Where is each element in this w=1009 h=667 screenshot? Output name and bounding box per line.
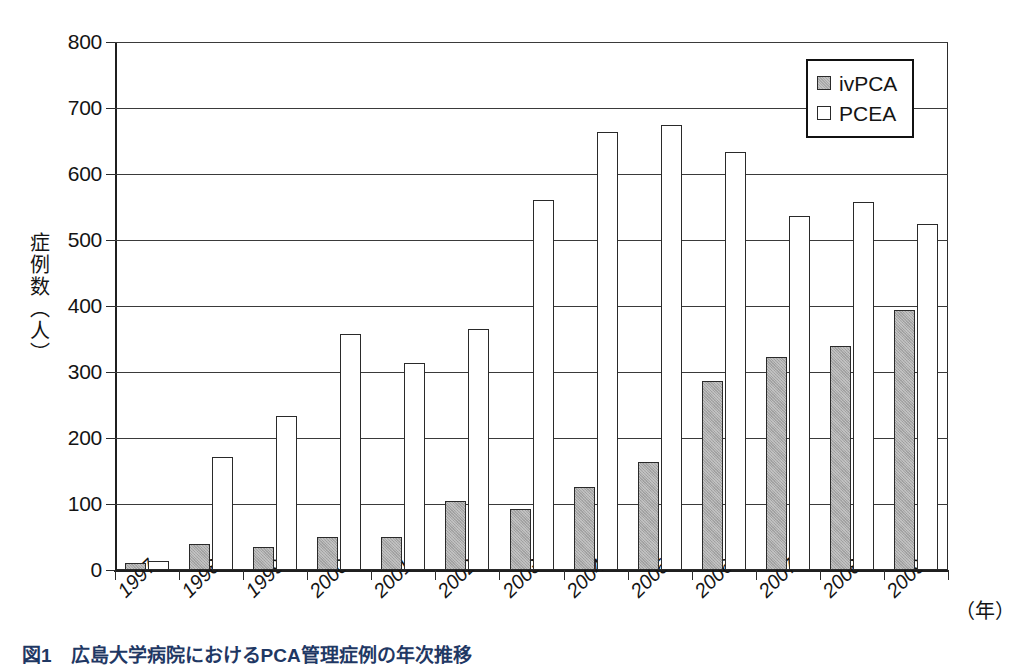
y-axis-tick-label: 300 <box>44 361 102 382</box>
legend-swatch-ivpca-icon <box>817 76 831 90</box>
bar-pcea-2002 <box>468 329 489 570</box>
x-axis-tick <box>435 570 436 580</box>
bar-pcea-2009 <box>917 224 938 571</box>
x-axis-tick <box>243 570 244 580</box>
bar-ivpca-2003 <box>510 509 531 570</box>
y-axis-tick <box>106 438 115 439</box>
y-axis-tick-label: 600 <box>44 163 102 184</box>
y-axis-tick <box>106 108 115 109</box>
bar-pcea-2000 <box>340 334 361 570</box>
x-axis-tick <box>756 570 757 580</box>
bar-pcea-2006 <box>725 152 746 570</box>
bar-pcea-2004 <box>597 132 618 570</box>
figure-caption: 図1 広島大学病院におけるPCA管理症例の年次推移 <box>22 645 472 667</box>
y-axis-tick <box>106 372 115 373</box>
y-axis-tick-label: 0 <box>44 559 102 580</box>
y-axis-tick-label: 500 <box>44 229 102 250</box>
gridline <box>115 504 948 505</box>
bar-ivpca-1997 <box>125 563 146 570</box>
bar-ivpca-2008 <box>830 346 851 570</box>
x-axis-tick <box>692 570 693 580</box>
bar-ivpca-1999 <box>253 547 274 570</box>
bar-ivpca-2000 <box>317 537 338 570</box>
bar-ivpca-2001 <box>381 537 402 570</box>
legend-label-pcea: PCEA <box>839 103 896 124</box>
bar-pcea-2007 <box>789 216 810 570</box>
bar-pcea-2001 <box>404 363 425 570</box>
y-axis-tick <box>106 240 115 241</box>
y-axis-tick-label: 700 <box>44 97 102 118</box>
gridline <box>115 372 948 373</box>
legend-label-ivpca: ivPCA <box>839 73 897 94</box>
y-axis-tick-label: 100 <box>44 493 102 514</box>
y-axis-tick <box>106 306 115 307</box>
x-axis-tick <box>115 570 116 580</box>
bar-ivpca-2005 <box>638 462 659 570</box>
x-axis-tick <box>371 570 372 580</box>
bar-ivpca-2009 <box>894 310 915 570</box>
y-axis-tick-label: 400 <box>44 295 102 316</box>
y-axis-tick-label: 200 <box>44 427 102 448</box>
bar-ivpca-2002 <box>445 501 466 570</box>
bar-pcea-2003 <box>533 200 554 570</box>
bar-pcea-1998 <box>212 457 233 570</box>
legend-item-ivpca[interactable]: ivPCA <box>817 68 903 98</box>
legend-swatch-pcea-icon <box>817 106 831 120</box>
x-axis-tick <box>884 570 885 580</box>
y-axis-tick <box>106 504 115 505</box>
x-axis-tick <box>628 570 629 580</box>
y-axis-tick <box>106 570 115 571</box>
y-axis-tick <box>106 174 115 175</box>
y-axis-tick-label: 800 <box>44 31 102 52</box>
bar-pcea-1999 <box>276 416 297 570</box>
bar-ivpca-2007 <box>766 357 787 570</box>
gridline <box>115 42 948 43</box>
gridline <box>115 240 948 241</box>
chart-legend: ivPCA PCEA <box>806 59 914 138</box>
y-axis-tick <box>106 42 115 43</box>
x-axis-tick <box>307 570 308 580</box>
bar-ivpca-1998 <box>189 544 210 570</box>
x-axis-tick <box>499 570 500 580</box>
bar-pcea-1997 <box>148 561 169 570</box>
gridline <box>115 306 948 307</box>
gridline <box>115 174 948 175</box>
x-axis-tick <box>564 570 565 580</box>
bar-pcea-2005 <box>661 125 682 570</box>
x-axis-unit-label: （年） <box>955 600 1009 622</box>
legend-item-pcea[interactable]: PCEA <box>817 98 903 128</box>
bar-ivpca-2006 <box>702 381 723 570</box>
bar-pcea-2008 <box>853 202 874 570</box>
bar-ivpca-2004 <box>574 487 595 570</box>
x-axis-tick <box>179 570 180 580</box>
x-axis-tick <box>820 570 821 580</box>
gridline <box>115 438 948 439</box>
x-axis-tick <box>948 570 949 580</box>
